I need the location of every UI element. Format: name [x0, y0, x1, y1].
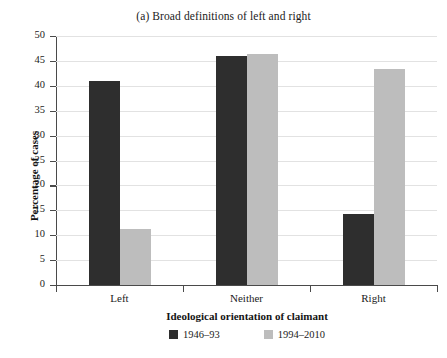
- legend: 1946–931994–2010: [56, 329, 438, 340]
- y-tick-label: 15: [0, 203, 45, 214]
- legend-swatch: [264, 330, 273, 339]
- bar: [374, 69, 405, 285]
- figure: (a) Broad definitions of left and right …: [0, 0, 447, 358]
- y-tick-label: 25: [0, 154, 45, 165]
- legend-entry: 1994–2010: [264, 329, 325, 340]
- y-tick-label: 0: [0, 278, 45, 289]
- x-tick-mark: [437, 286, 438, 292]
- y-tick-label: 20: [0, 178, 45, 189]
- bar: [343, 214, 374, 285]
- legend-swatch: [169, 330, 178, 339]
- chart-title: (a) Broad definitions of left and right: [0, 10, 447, 22]
- bar: [216, 56, 247, 285]
- bar: [247, 54, 278, 285]
- y-tick-label: 40: [0, 79, 45, 90]
- y-tick-label: 35: [0, 104, 45, 115]
- y-tick-label: 45: [0, 54, 45, 65]
- bar: [89, 81, 120, 285]
- y-tick-label: 5: [0, 253, 45, 264]
- gridline: [56, 285, 437, 286]
- legend-label: 1994–2010: [278, 329, 325, 340]
- x-tick-mark: [56, 286, 57, 292]
- bar: [120, 229, 151, 285]
- x-tick-label: Left: [60, 292, 180, 304]
- legend-entry: 1946–93: [169, 329, 220, 340]
- legend-label: 1946–93: [183, 329, 220, 340]
- x-tick-label: Right: [314, 292, 434, 304]
- plot-area: [56, 36, 437, 285]
- y-tick-label: 30: [0, 129, 45, 140]
- y-tick-label: 10: [0, 228, 45, 239]
- x-tick-label: Neither: [187, 292, 307, 304]
- y-tick-label: 50: [0, 29, 45, 40]
- x-axis-title: Ideological orientation of claimant: [56, 310, 438, 322]
- x-tick-mark: [310, 286, 311, 292]
- gridline: [56, 36, 437, 37]
- x-tick-mark: [183, 286, 184, 292]
